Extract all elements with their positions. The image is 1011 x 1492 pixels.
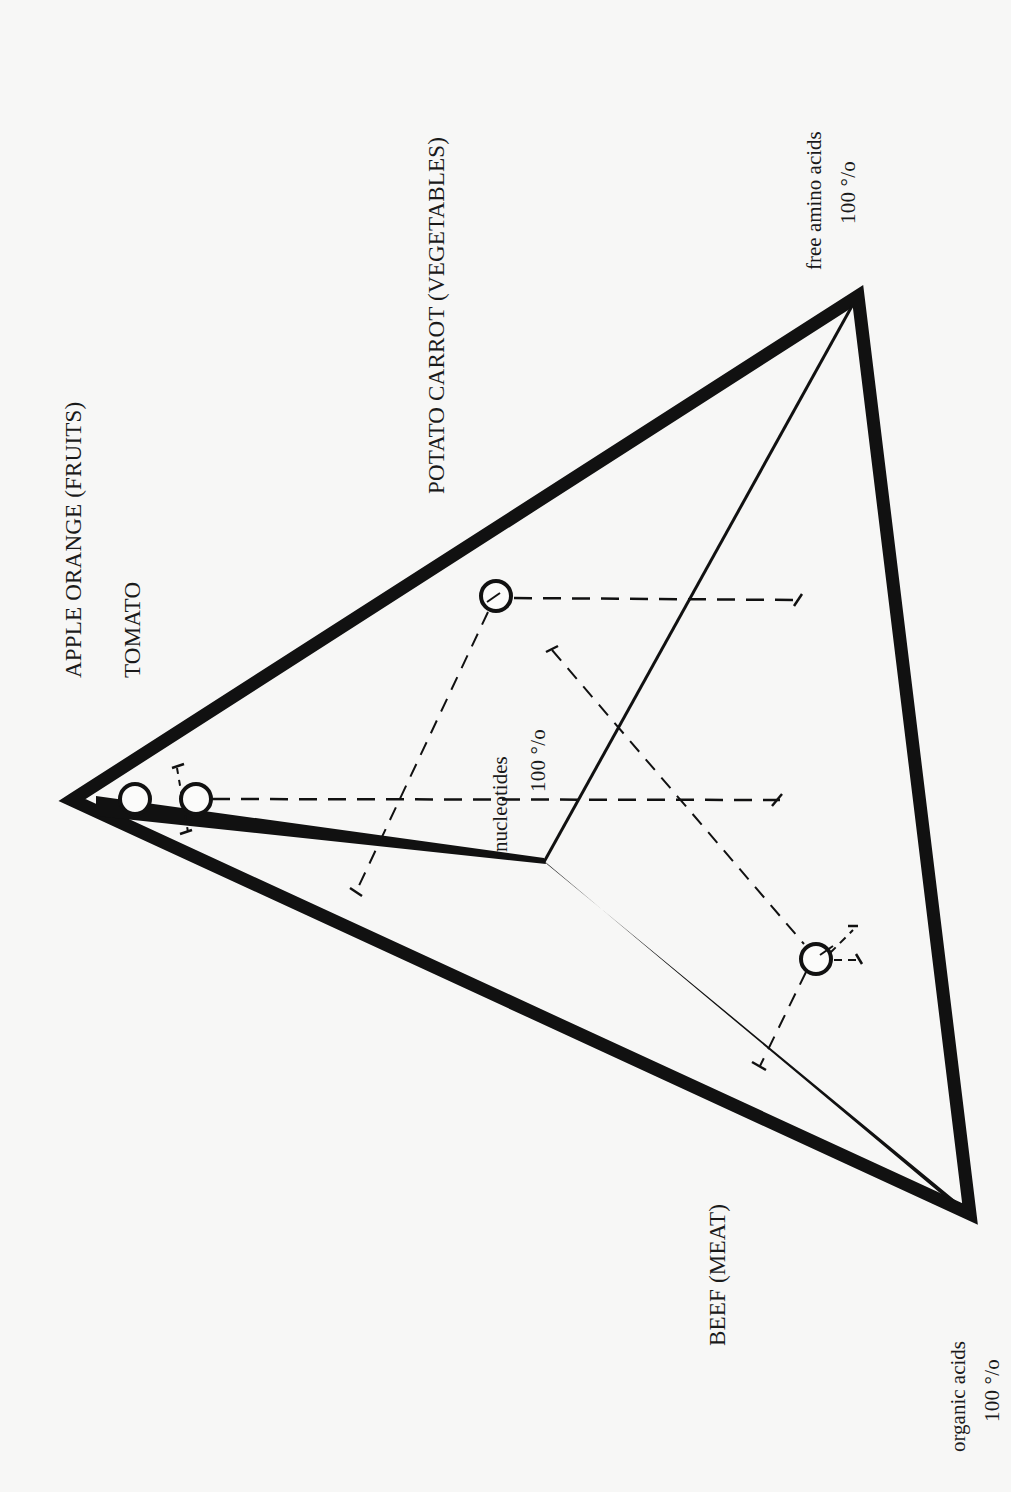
axis-to-free-amino-acids — [544, 306, 852, 862]
label-fruits: APPLE ORANGE (FRUITS) — [62, 402, 85, 678]
point-apple-orange — [181, 784, 211, 814]
label-organic-acids: organic acids — [948, 1341, 969, 1452]
tick-vegetables-end — [794, 594, 802, 606]
point-beef — [801, 944, 831, 974]
label-tomato: TOMATO — [121, 582, 144, 678]
guide-vegetables-horizontal — [514, 598, 798, 600]
label-organic-acids-pct: 100 °/o — [982, 1359, 1003, 1422]
label-nucleotides: nucleotides — [490, 756, 511, 852]
label-vegetables: POTATO CARROT (VEGETABLES) — [425, 137, 448, 494]
label-meat: BEEF (MEAT) — [706, 1204, 729, 1346]
label-nucleotides-pct: 100 °/o — [528, 729, 549, 792]
tick-fruit-top — [172, 764, 184, 768]
point-tomato — [120, 784, 150, 814]
tick-beef-down-end — [752, 1062, 766, 1070]
guide-beef-down — [760, 972, 806, 1066]
axis-to-apex — [96, 796, 546, 864]
label-free-amino-acids: free amino acids — [804, 131, 825, 270]
guide-beef-up-right — [830, 930, 853, 953]
tick-beef-right-end — [856, 954, 862, 964]
outer-triangle — [72, 296, 970, 1214]
guide-beef-diagonal — [552, 650, 804, 944]
tick-veg-diagonal-end — [350, 888, 362, 896]
axis-to-organic-acids — [543, 860, 962, 1206]
tick-fruit-bottom — [180, 830, 192, 834]
label-free-amino-acids-pct: 100 °/o — [838, 161, 859, 224]
